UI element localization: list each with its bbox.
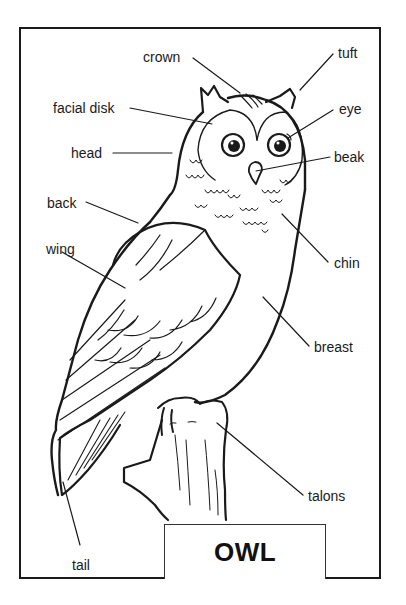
- label-facial-disk: facial disk: [53, 100, 114, 116]
- owl-illustration: [0, 0, 406, 605]
- label-head: head: [71, 145, 102, 161]
- talons: [158, 398, 227, 435]
- label-talons: talons: [308, 488, 345, 504]
- head-outline: [228, 95, 305, 190]
- beak: [249, 162, 262, 184]
- label-wing: wing: [46, 241, 75, 257]
- label-tail: tail: [72, 557, 90, 573]
- label-beak: beak: [334, 149, 364, 165]
- label-chin: chin: [334, 255, 360, 271]
- label-eye: eye: [339, 101, 362, 117]
- label-breast: breast: [314, 339, 353, 355]
- label-back: back: [47, 195, 77, 211]
- diagram-title: OWL: [214, 537, 276, 568]
- label-tuft: tuft: [338, 45, 357, 61]
- body-outline: [195, 190, 305, 403]
- title-box: OWL: [164, 524, 326, 579]
- leader-lines: [62, 54, 333, 545]
- owl-diagram: crown tuft facial disk eye head beak bac…: [0, 0, 406, 605]
- label-crown: crown: [143, 49, 180, 65]
